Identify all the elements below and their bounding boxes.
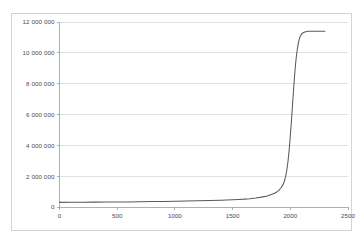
y-tick-label: 2 000 000 bbox=[26, 173, 54, 180]
x-tick-label: 1000 bbox=[155, 212, 195, 219]
y-tick-label: 10 000 000 bbox=[23, 49, 55, 56]
y-tick-label: 0 bbox=[51, 203, 55, 210]
data-series-group bbox=[60, 31, 325, 202]
x-tick-label: 0 bbox=[40, 212, 80, 219]
x-tick-label: 2500 bbox=[328, 212, 363, 219]
y-tick-label: 4 000 000 bbox=[26, 142, 54, 149]
x-tick-label: 2000 bbox=[270, 212, 310, 219]
series-line-0 bbox=[60, 31, 325, 202]
y-tick-label: 6 000 000 bbox=[26, 111, 54, 118]
y-tick-label: 12 000 000 bbox=[23, 18, 55, 25]
chart-container: 02 000 0004 000 0006 000 0008 000 00010 … bbox=[0, 0, 363, 243]
tick-marks-group bbox=[57, 22, 349, 210]
x-tick-label: 1500 bbox=[213, 212, 253, 219]
gridlines-group bbox=[60, 22, 349, 176]
y-tick-label: 8 000 000 bbox=[26, 80, 54, 87]
x-tick-label: 500 bbox=[97, 212, 137, 219]
